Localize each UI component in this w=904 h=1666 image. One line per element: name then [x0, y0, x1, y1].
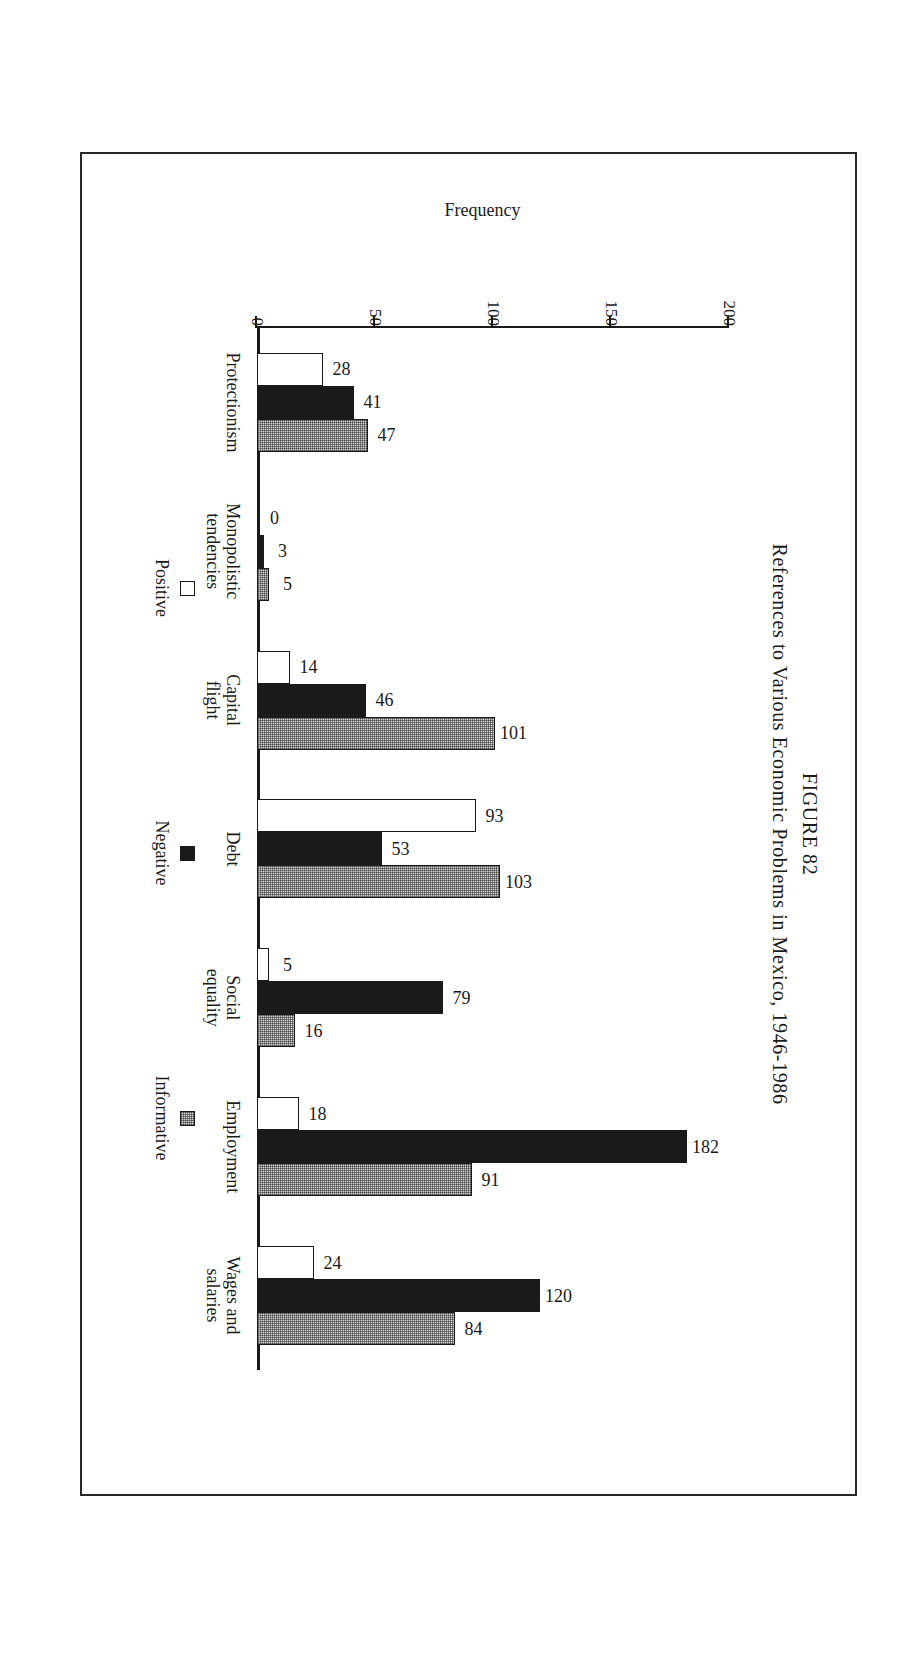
legend-label: Positive	[151, 478, 172, 698]
bar-negative[interactable]: 41	[257, 386, 354, 419]
bar-value-label: 53	[392, 838, 410, 859]
bar-group: 9353103Debt	[257, 775, 729, 924]
category-label: Employment	[223, 1067, 243, 1227]
bar-negative[interactable]: 46	[257, 684, 366, 717]
legend-swatch-icon	[180, 581, 195, 596]
legend-swatch-icon	[180, 846, 195, 861]
bar-value-label: 47	[377, 425, 395, 446]
axis-tick-label: 50	[365, 266, 385, 326]
bar-value-label: 16	[304, 1020, 322, 1041]
bar-informative[interactable]: 5	[257, 568, 269, 601]
y-axis-title: Frequency	[383, 200, 583, 221]
category-label: Capitalflight	[203, 620, 243, 780]
bar-group: 1818291Employment	[257, 1072, 729, 1221]
legend-item-negative[interactable]: Negative	[151, 743, 195, 963]
bar-value-label: 79	[453, 987, 471, 1008]
bar-negative[interactable]: 120	[257, 1279, 540, 1312]
category-label: Socialequality	[203, 918, 243, 1078]
figure-caption: References to Various Economic Problems …	[768, 154, 791, 1494]
bar-group: 035Monopolistictendencies	[257, 477, 729, 626]
rotated-chart-stage: FIGURE 82 References to Various Economic…	[82, 154, 855, 1494]
figure-number: FIGURE 82	[798, 154, 821, 1494]
category-label: Wages andsalaries	[203, 1216, 243, 1376]
bar-value-label: 103	[505, 871, 532, 892]
legend-label: Informative	[151, 1008, 172, 1228]
figure-page: FIGURE 82 References to Various Economic…	[0, 0, 904, 1666]
bar-value-label: 41	[363, 392, 381, 413]
bar-value-label: 0	[270, 508, 279, 529]
bar-group: 1446101Capitalflight	[257, 626, 729, 775]
bar-negative[interactable]: 182	[257, 1130, 687, 1163]
bar-value-label: 46	[375, 690, 393, 711]
plot-area: 050100150200 284147Protectionism035Monop…	[257, 328, 729, 1370]
chart-legend: PositiveNegativeInformative	[125, 328, 195, 1370]
bar-group: 2412084Wages andsalaries	[257, 1221, 729, 1370]
bar-negative[interactable]: 3	[257, 535, 264, 568]
legend-swatch-icon	[180, 1111, 195, 1126]
bar-value-label: 93	[486, 805, 504, 826]
bar-value-label: 84	[465, 1318, 483, 1339]
bar-informative[interactable]: 84	[257, 1312, 455, 1345]
bar-positive[interactable]: 18	[257, 1097, 299, 1130]
bar-positive[interactable]: 5	[257, 948, 269, 981]
bar-value-label: 182	[692, 1136, 719, 1157]
bar-value-label: 24	[323, 1252, 341, 1273]
bar-negative[interactable]: 79	[257, 981, 443, 1014]
bar-informative[interactable]: 101	[257, 717, 495, 750]
bar-value-label: 5	[283, 954, 292, 975]
axis-tick-label: 0	[247, 266, 267, 326]
axis-tick-label: 200	[719, 266, 739, 326]
category-label: Debt	[223, 769, 243, 929]
bar-value-label: 18	[309, 1103, 327, 1124]
axis-tick-label: 100	[483, 266, 503, 326]
bar-value-label: 5	[283, 574, 292, 595]
bar-positive[interactable]: 24	[257, 1246, 314, 1279]
bar-informative[interactable]: 16	[257, 1014, 295, 1047]
category-label: Monopolistictendencies	[203, 471, 243, 631]
bar-value-label: 101	[500, 723, 527, 744]
bar-value-label: 3	[278, 541, 287, 562]
bar-positive[interactable]: 14	[257, 651, 290, 684]
category-label: Protectionism	[223, 322, 243, 482]
bar-positive[interactable]: 28	[257, 353, 323, 386]
bar-informative[interactable]: 91	[257, 1163, 472, 1196]
bar-group: 284147Protectionism	[257, 328, 729, 477]
bar-value-label: 28	[333, 359, 351, 380]
bar-value-label: 14	[300, 657, 318, 678]
legend-item-positive[interactable]: Positive	[151, 478, 195, 698]
bar-informative[interactable]: 103	[257, 865, 500, 898]
legend-item-informative[interactable]: Informative	[151, 1008, 195, 1228]
legend-label: Negative	[151, 743, 172, 963]
bar-value-label: 120	[545, 1285, 572, 1306]
bar-informative[interactable]: 47	[257, 419, 368, 452]
bar-value-label: 91	[481, 1169, 499, 1190]
bar-negative[interactable]: 53	[257, 832, 382, 865]
bar-positive[interactable]: 93	[257, 799, 476, 832]
axis-tick-label: 150	[601, 266, 621, 326]
bar-group: 57916Socialequality	[257, 923, 729, 1072]
